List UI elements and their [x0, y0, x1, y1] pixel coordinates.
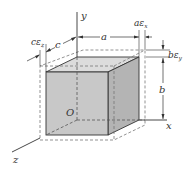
arrow-icon [71, 37, 76, 41]
dim-a-label: a [101, 31, 107, 42]
origin-label: O [66, 107, 74, 118]
arrow-icon [35, 55, 40, 59]
y-axis-label: y [80, 10, 87, 21]
arrow-icon [134, 36, 139, 39]
dim-c-label: c [55, 39, 61, 50]
strain-block-diagram: y x z O a b c aεx bεy cεz [0, 0, 192, 174]
z-axis-label: z [12, 154, 19, 165]
dim-b-label: b [159, 84, 165, 95]
z-axis [12, 138, 40, 152]
arrow-icon [46, 48, 51, 52]
arrow-icon [145, 36, 149, 39]
diagram-canvas: y x z O a b c aεx bεy cεz [0, 0, 192, 174]
arrow-icon [78, 36, 83, 39]
delta-a-label: aεx [134, 18, 148, 29]
delta-c-label: cεz [31, 37, 45, 48]
delta-b-label: bεy [168, 50, 183, 62]
arrow-icon [162, 45, 165, 50]
arrow-icon [162, 114, 165, 119]
x-axis-label: x [166, 120, 172, 131]
arrow-icon [162, 58, 165, 63]
